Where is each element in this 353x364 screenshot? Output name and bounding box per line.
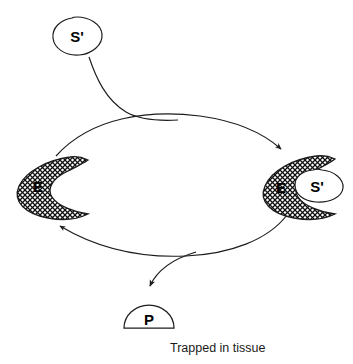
- node-label-substrate-free: S': [70, 28, 84, 45]
- node-label-enzyme-complex: E: [276, 179, 286, 196]
- node-substrate-bound[interactable]: S': [295, 169, 343, 202]
- node-label-substrate-bound: S': [310, 178, 324, 195]
- substrate-binding-arrow: [89, 57, 178, 120]
- node-enzyme-free[interactable]: E: [17, 157, 88, 220]
- return-arc: [60, 215, 287, 256]
- node-substrate-free[interactable]: S': [53, 17, 102, 55]
- enzyme-cycle-diagram: E E S' S' P Trapped in tissue: [0, 0, 353, 364]
- node-label-product: P: [144, 311, 154, 328]
- product-release-arrow: [150, 252, 196, 286]
- node-enzyme-complex[interactable]: E S': [263, 156, 343, 220]
- diagram-caption: Trapped in tissue: [170, 341, 265, 355]
- node-label-enzyme-free: E: [33, 178, 43, 195]
- diagram-canvas: E E S' S' P Trapped in tissue: [0, 0, 353, 364]
- node-product[interactable]: P: [124, 305, 174, 328]
